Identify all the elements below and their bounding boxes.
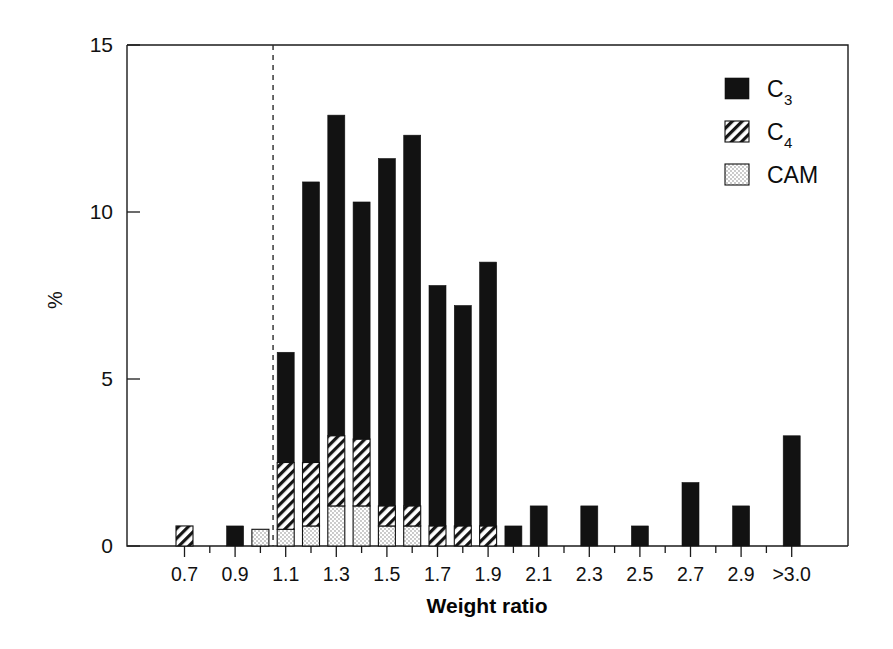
- x-axis-ticks: [185, 546, 792, 557]
- bar-stack: [277, 352, 294, 546]
- x-tick-label: 0.7: [171, 563, 198, 585]
- x-tick-label: 1.9: [475, 563, 502, 585]
- bar-stack: [530, 506, 547, 546]
- x-tick-label: 0.9: [222, 563, 249, 585]
- x-tick-label: 2.1: [525, 563, 552, 585]
- legend: C3C4CAM: [725, 76, 818, 188]
- bar-stack: [505, 526, 522, 546]
- bar-segment-cam: [404, 526, 421, 546]
- legend-label: CAM: [767, 162, 818, 188]
- bar-segment-c4: [454, 526, 471, 546]
- legend-swatch-c4: [725, 121, 749, 142]
- bar-stack: [252, 529, 269, 546]
- bars-group: [176, 115, 800, 546]
- bar-segment-c3: [227, 526, 244, 546]
- y-axis-title: %: [44, 291, 66, 309]
- legend-label: C: [767, 76, 784, 102]
- bar-stack: [631, 526, 648, 546]
- bar-stack: [328, 115, 345, 546]
- bar-stack: [783, 436, 800, 546]
- bar-stack: [303, 182, 320, 546]
- bar-segment-c4: [328, 436, 345, 506]
- bar-segment-c4: [378, 506, 395, 526]
- bar-stack: [176, 526, 193, 546]
- y-tick-label: 15: [90, 33, 113, 56]
- bar-segment-c3: [378, 159, 395, 506]
- bar-segment-c4: [176, 526, 193, 546]
- bar-stack: [682, 483, 699, 546]
- y-axis: 051015: [90, 33, 140, 557]
- bar-segment-c3: [404, 135, 421, 506]
- y-tick-label: 10: [90, 200, 113, 223]
- bar-segment-c3: [581, 506, 598, 546]
- legend-swatch-cam: [725, 164, 749, 185]
- legend-label-subscript: 3: [784, 91, 792, 108]
- bar-stack: [733, 506, 750, 546]
- bar-stack: [353, 202, 370, 546]
- bar-segment-c3: [353, 202, 370, 439]
- bar-segment-c4: [404, 506, 421, 526]
- legend-label-subscript: 4: [784, 134, 792, 151]
- x-tick-label: 2.9: [728, 563, 755, 585]
- bar-segment-cam: [353, 506, 370, 546]
- bar-segment-cam: [328, 506, 345, 546]
- bar-stack: [429, 285, 446, 546]
- x-axis-labels: 0.70.91.11.31.51.71.92.12.32.52.72.9>3.0: [171, 563, 811, 585]
- legend-label: C: [767, 119, 784, 145]
- bar-segment-c4: [353, 439, 370, 506]
- bar-segment-c4: [277, 463, 294, 530]
- bar-stack: [404, 135, 421, 546]
- bar-segment-cam: [277, 529, 294, 546]
- bar-stack: [227, 526, 244, 546]
- bar-segment-cam: [378, 526, 395, 546]
- bar-segment-c3: [454, 306, 471, 526]
- bar-segment-cam: [252, 529, 269, 546]
- x-tick-label: 1.7: [424, 563, 451, 585]
- bar-segment-c4: [429, 526, 446, 546]
- legend-swatch-c3: [725, 78, 749, 99]
- x-tick-label: 1.1: [272, 563, 299, 585]
- x-tick-label: 2.5: [626, 563, 653, 585]
- bar-stack: [378, 159, 395, 546]
- bar-segment-c3: [303, 182, 320, 463]
- bar-segment-c4: [303, 463, 320, 526]
- y-tick-label: 0: [101, 534, 113, 557]
- x-axis-title: Weight ratio: [427, 594, 548, 617]
- bar-segment-c3: [733, 506, 750, 546]
- bar-segment-c3: [631, 526, 648, 546]
- x-tick-label: 1.5: [373, 563, 400, 585]
- x-tick-label: 1.3: [323, 563, 350, 585]
- bar-segment-c4: [480, 526, 497, 546]
- bar-segment-c3: [530, 506, 547, 546]
- y-tick-label: 5: [101, 367, 113, 390]
- bar-stack: [581, 506, 598, 546]
- bar-segment-c3: [505, 526, 522, 546]
- bar-segment-c3: [480, 262, 497, 526]
- bar-segment-c3: [429, 285, 446, 525]
- x-tick-label: 2.3: [576, 563, 603, 585]
- bar-segment-cam: [303, 526, 320, 546]
- bar-segment-c3: [682, 483, 699, 546]
- bar-segment-c3: [783, 436, 800, 546]
- bar-segment-c3: [277, 352, 294, 462]
- bar-segment-c3: [328, 115, 345, 436]
- chart-figure: 051015 0.70.91.11.31.51.71.92.12.32.52.7…: [0, 0, 893, 649]
- bar-stack: [480, 262, 497, 546]
- x-tick-label: >3.0: [772, 563, 811, 585]
- bar-stack: [454, 306, 471, 546]
- histogram-svg: 051015 0.70.91.11.31.51.71.92.12.32.52.7…: [0, 0, 893, 649]
- x-tick-label: 2.7: [677, 563, 704, 585]
